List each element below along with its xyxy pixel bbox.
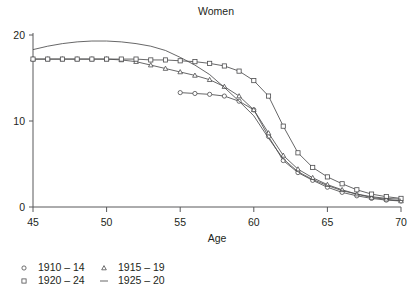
series-marker: [252, 78, 256, 82]
series-marker: [105, 57, 109, 61]
legend-entry[interactable]: 1920 – 24: [22, 274, 85, 286]
series-marker: [149, 58, 153, 62]
y-axis-tick-label: 10: [13, 115, 25, 127]
series-1: [178, 91, 403, 204]
series-marker: [208, 61, 212, 65]
series-marker: [163, 58, 167, 62]
series-marker: [369, 192, 373, 196]
series-marker: [178, 59, 182, 63]
series-marker: [281, 124, 285, 128]
legend-entry-label: 1920 – 24: [38, 274, 85, 286]
series-marker: [193, 91, 197, 95]
x-axis-tick-label: 65: [322, 216, 334, 228]
series-marker: [355, 188, 359, 192]
legend-entry[interactable]: 1925 – 20: [100, 274, 165, 286]
y-axis-tick-label: 20: [13, 29, 25, 41]
series-marker: [208, 92, 212, 96]
series-marker: [46, 57, 50, 61]
legend-square-marker: [22, 279, 26, 283]
legend-circle-marker: [22, 266, 26, 270]
x-axis-tick-label: 45: [27, 216, 39, 228]
series-marker: [237, 94, 242, 98]
series-line: [33, 59, 401, 201]
series-line: [33, 59, 401, 198]
series-marker: [325, 175, 329, 179]
chart-title: Women: [198, 5, 234, 17]
series-marker: [60, 57, 64, 61]
women-line-chart: Women01020455055606570Age1910 – 141920 –…: [0, 0, 411, 291]
series-marker: [31, 57, 35, 61]
x-axis-tick-label: 70: [395, 216, 407, 228]
series-marker: [134, 57, 138, 61]
series-marker: [75, 57, 79, 61]
series-3: [31, 57, 403, 201]
series-marker: [399, 196, 403, 200]
series-marker: [222, 64, 226, 68]
legend-entry[interactable]: 1915 – 19: [102, 261, 165, 273]
legend-entry[interactable]: 1910 – 14: [22, 261, 85, 273]
y-axis-tick-label: 0: [19, 201, 25, 213]
series-marker: [119, 57, 123, 61]
x-axis-tick-label: 60: [248, 216, 260, 228]
series-line: [180, 93, 401, 201]
series-2: [31, 57, 404, 203]
series-marker: [90, 57, 94, 61]
x-axis-tick-label: 55: [174, 216, 186, 228]
x-axis-title: Age: [208, 232, 227, 244]
legend-entry-label: 1915 – 19: [118, 261, 165, 273]
series-marker: [340, 182, 344, 186]
series-marker: [266, 94, 270, 98]
chart-container: Women01020455055606570Age1910 – 141920 –…: [0, 0, 411, 291]
legend-entry-label: 1910 – 14: [38, 261, 85, 273]
legend-entry-label: 1925 – 20: [118, 274, 165, 286]
series-marker: [193, 60, 197, 64]
series-marker: [311, 165, 315, 169]
series-marker: [178, 91, 182, 95]
x-axis-tick-label: 50: [101, 216, 113, 228]
series-marker: [222, 94, 226, 98]
legend-triangle-marker: [102, 266, 107, 270]
series-marker: [237, 69, 241, 73]
series-marker: [296, 151, 300, 155]
